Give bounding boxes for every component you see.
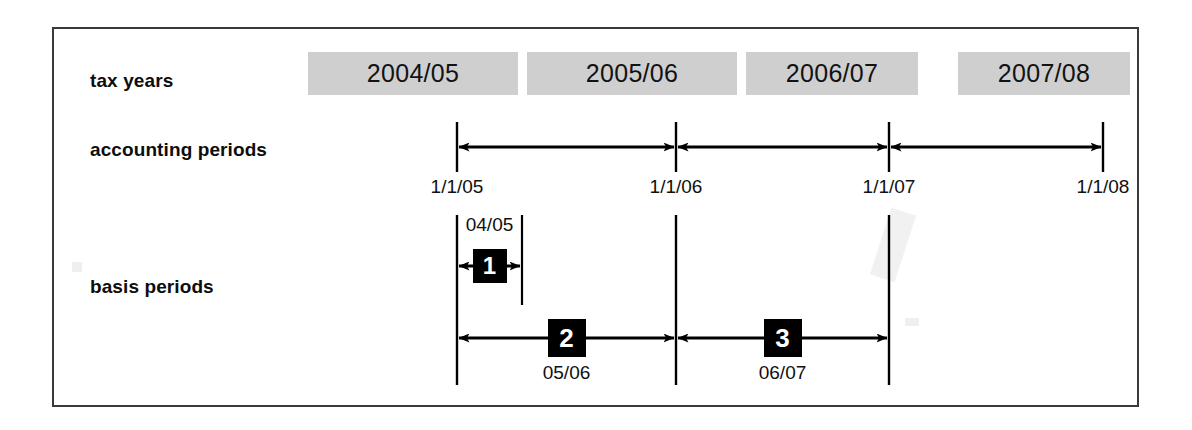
accounting-tick-label: 1/1/07 — [863, 176, 916, 198]
accounting-tick-label: 1/1/06 — [650, 176, 703, 198]
basis-period-caption: 06/07 — [759, 362, 807, 384]
tax-year-bar: 2005/06 — [527, 52, 737, 95]
basis-period-number-badge: 2 — [548, 319, 586, 357]
tax-year-bar: 2006/07 — [746, 52, 918, 95]
basis-period-number-badge: 3 — [764, 319, 802, 357]
basis-period-number-badge: 1 — [473, 249, 507, 283]
basis-period-caption: 05/06 — [543, 362, 591, 384]
basis-period-caption: 04/05 — [466, 214, 514, 236]
row-label-basis-periods: basis periods — [90, 276, 214, 298]
accounting-tick-label: 1/1/05 — [431, 176, 484, 198]
tax-year-bar: 2004/05 — [308, 52, 518, 95]
accounting-tick-label: 1/1/08 — [1077, 176, 1130, 198]
tax-year-bar: 2007/08 — [958, 52, 1130, 95]
row-label-tax-years: tax years — [90, 70, 173, 92]
row-label-accounting-periods: accounting periods — [90, 139, 267, 161]
diagram-canvas: tax years accounting periods basis perio… — [0, 0, 1192, 430]
